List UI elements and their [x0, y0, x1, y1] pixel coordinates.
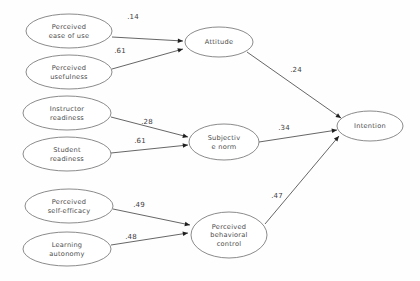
- node-subjective_norm[interactable]: Subjective norm: [189, 124, 259, 160]
- arrow-head-ir_to_subjective_norm: [182, 133, 188, 137]
- node-label-perceived_behavioral_control: Perceived: [212, 223, 246, 231]
- edge-coefficient-sr_to_subjective_norm: .61: [134, 137, 146, 145]
- edge-attitude_to_intention: [247, 52, 341, 118]
- arrow-head-peou_to_attitude: [178, 38, 183, 43]
- node-label-instructor_readiness: Instructor: [50, 105, 85, 113]
- arrow-head-pse_to_pbc: [184, 222, 190, 227]
- edge-peou_to_attitude: [112, 37, 183, 43]
- node-label-attitude: Attitude: [205, 38, 233, 46]
- node-label-perceived_usefulness: Perceived: [52, 64, 86, 72]
- edge-coefficient-pu_to_attitude: .61: [114, 47, 126, 55]
- node-label-perceived_behavioral_control: control: [217, 240, 242, 248]
- edge-coefficient-peou_to_attitude: .14: [127, 13, 139, 21]
- node-perceived_ease_of_use[interactable]: Perceivedease of use: [26, 14, 112, 48]
- edge-coefficient-pse_to_pbc: .49: [133, 201, 145, 209]
- node-perceived_usefulness[interactable]: Perceivedusefulness: [26, 55, 112, 89]
- edge-line-attitude_to_intention: [247, 52, 341, 118]
- edge-line-la_to_pbc: [111, 233, 188, 245]
- node-perceived_self_efficacy[interactable]: Perceivedself-efficacy: [25, 189, 113, 223]
- edge-coefficient-subjective_norm_to_intention: .34: [278, 124, 290, 132]
- node-student_readiness[interactable]: Studentreadiness: [23, 137, 111, 171]
- node-label-perceived_behavioral_control: behavioral: [210, 231, 247, 239]
- node-label-perceived_ease_of_use: Perceived: [52, 23, 86, 31]
- edge-coefficient-la_to_pbc: .48: [125, 233, 137, 241]
- arrow-head-attitude_to_intention: [335, 113, 341, 118]
- edge-coefficient-pbc_to_intention: .47: [271, 192, 283, 200]
- edge-line-pse_to_pbc: [113, 209, 190, 225]
- node-label-perceived_ease_of_use: ease of use: [49, 32, 90, 40]
- node-label-perceived_self_efficacy: self-efficacy: [48, 207, 91, 215]
- edge-sr_to_subjective_norm: [111, 143, 188, 153]
- edge-line-sr_to_subjective_norm: [111, 145, 188, 153]
- node-label-perceived_self_efficacy: Perceived: [52, 198, 86, 206]
- node-label-instructor_readiness: readiness: [50, 114, 84, 122]
- edge-subjective_norm_to_intention: [259, 129, 337, 142]
- edge-la_to_pbc: [111, 232, 188, 245]
- node-intention[interactable]: Intention: [337, 111, 403, 141]
- node-label-perceived_usefulness: usefulness: [50, 73, 88, 81]
- node-label-subjective_norm: Subjectiv: [208, 134, 241, 142]
- edge-line-pbc_to_intention: [265, 136, 339, 224]
- path-diagram-canvas: Perceivedease of usePerceivedusefulnessI…: [0, 0, 420, 281]
- nodes-layer: Perceivedease of usePerceivedusefulnessI…: [23, 14, 403, 266]
- edge-pbc_to_intention: [265, 136, 339, 224]
- edge-coefficient-attitude_to_intention: .24: [290, 66, 302, 74]
- node-label-learning_autonomy: Learning: [52, 241, 83, 249]
- edge-pse_to_pbc: [113, 209, 190, 226]
- node-label-intention: Intention: [354, 122, 386, 130]
- node-label-learning_autonomy: autonomy: [49, 250, 84, 258]
- node-perceived_behavioral_control[interactable]: Perceivedbehavioralcontrol: [191, 212, 267, 258]
- node-instructor_readiness[interactable]: Instructorreadiness: [23, 96, 111, 130]
- node-attitude[interactable]: Attitude: [185, 27, 253, 57]
- arrow-head-sr_to_subjective_norm: [183, 143, 188, 148]
- arrow-head-subjective_norm_to_intention: [332, 129, 337, 134]
- node-learning_autonomy[interactable]: Learningautonomy: [23, 232, 111, 266]
- path-diagram-svg: Perceivedease of usePerceivedusefulnessI…: [0, 0, 420, 281]
- node-label-student_readiness: readiness: [50, 155, 84, 163]
- node-label-student_readiness: Student: [53, 146, 81, 154]
- edge-line-peou_to_attitude: [112, 37, 183, 41]
- arrow-head-la_to_pbc: [183, 232, 188, 237]
- edge-line-subjective_norm_to_intention: [259, 130, 337, 142]
- edge-coefficient-ir_to_subjective_norm: .28: [141, 118, 153, 126]
- node-label-subjective_norm: e norm: [212, 143, 237, 151]
